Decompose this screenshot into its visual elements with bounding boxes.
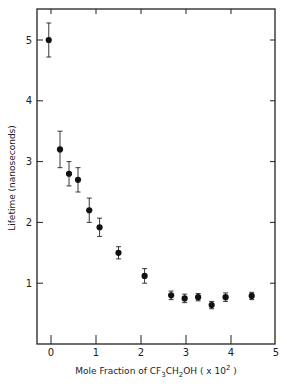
data-point (209, 301, 215, 308)
data-point (249, 292, 255, 299)
data-point (86, 198, 92, 222)
y-tick-label: 3 (26, 156, 32, 167)
x-tick-label: 1 (93, 347, 99, 358)
y-tick-label: 4 (26, 95, 32, 106)
y-tick-label: 1 (26, 278, 32, 289)
y-tick-label: 5 (26, 35, 32, 46)
lifetime-chart: 01234512345 Lifetime (nanoseconds) Mole … (0, 0, 287, 386)
x-tick-label: 2 (138, 347, 144, 358)
y-axis-title: Lifetime (nanoseconds) (7, 125, 17, 231)
x-tick-label: 5 (273, 347, 279, 358)
axis-ticks: 01234512345 (26, 9, 280, 358)
data-points (46, 23, 255, 309)
x-tick-label: 4 (228, 347, 234, 358)
data-point (46, 23, 52, 57)
x-tick-label: 3 (183, 347, 189, 358)
data-point (97, 218, 103, 236)
data-point (115, 247, 121, 259)
data-point (182, 294, 188, 303)
data-point (142, 269, 148, 284)
data-point (195, 294, 201, 301)
data-point (223, 293, 229, 302)
data-point (57, 131, 63, 167)
data-point (75, 168, 81, 192)
y-tick-label: 2 (26, 217, 32, 228)
x-axis-title: Mole Fraction of CF3CH2OH ( x 102 ) (75, 364, 237, 379)
data-point (168, 291, 174, 300)
data-point (66, 162, 72, 186)
plot-frame (37, 9, 275, 344)
x-tick-label: 0 (48, 347, 54, 358)
